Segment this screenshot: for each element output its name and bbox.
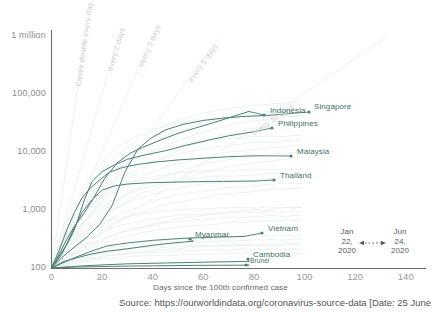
x-tick-label: 140 [386, 271, 426, 282]
x-tick-label: 120 [335, 271, 375, 282]
legend-start-date: Jan 22, 2020 [333, 227, 361, 256]
covid-trajectory-chart: 1001,00010,000100,0001 million 020406080… [0, 0, 432, 312]
endpoint-dot-malaysia [289, 154, 292, 157]
legend-end-date: Jun 24, 2020 [386, 227, 414, 256]
country-label-malaysia: Malaysia [297, 147, 329, 156]
series-line-indonesia [52, 111, 249, 268]
x-tick-label: 20 [82, 271, 122, 282]
endpoint-dot-indonesia [262, 113, 265, 116]
x-tick-label: 80 [234, 271, 274, 282]
endpoint-dot-philippines [270, 126, 273, 129]
legend-start-line2: 22, [333, 237, 361, 247]
x-axis-title: Days since the 100th confirmed case [153, 283, 288, 292]
country-label-myanmar: Myanmar [195, 230, 229, 239]
country-label-vietnam: Vietnam [268, 224, 298, 233]
country-label-brunei: Brunei [250, 257, 269, 264]
endpoint-dot-vietnam [260, 231, 263, 234]
legend-start-line1: Jan [333, 227, 361, 237]
x-tick-label: 0 [32, 271, 72, 282]
legend-end-line1: Jun [386, 227, 414, 237]
x-tick-label: 40 [133, 271, 173, 282]
y-tick-label: 1,000 [0, 204, 46, 214]
x-tick-label: 100 [285, 271, 325, 282]
country-label-singapore: Singapore [314, 102, 351, 111]
legend-date-arrow [359, 241, 386, 245]
legend-end-line3: 2020 [386, 246, 414, 256]
legend-end-line2: 24, [386, 237, 414, 247]
endpoint-dot-thailand [272, 178, 275, 181]
country-label-thailand: Thailand [280, 171, 312, 180]
endpoint-dot-myanmar [188, 237, 191, 240]
legend-start-line3: 2020 [333, 246, 361, 256]
country-label-philippines: Philippines [278, 119, 318, 128]
country-label-indonesia: Indonesia [270, 106, 306, 115]
y-tick-label: 100,000 [0, 88, 46, 98]
y-tick-label: 10,000 [0, 146, 46, 156]
x-tick-label: 60 [183, 271, 223, 282]
endpoint-dot-brunei [244, 263, 247, 266]
source-note: Source: https://ourworldindata.org/coron… [119, 297, 432, 308]
y-tick-label: 1 million [0, 30, 46, 40]
endpoint-dot-singapore [307, 110, 310, 113]
